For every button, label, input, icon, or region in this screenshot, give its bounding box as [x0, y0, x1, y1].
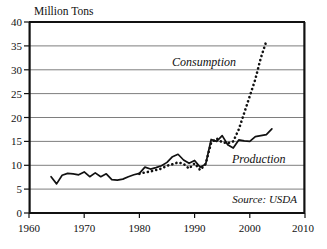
x-tick-label-2000: 2000 — [239, 222, 262, 234]
y-tick-label-10: 10 — [11, 159, 23, 171]
production-series-label: Production — [231, 152, 286, 166]
y-tick-label-25: 25 — [11, 88, 23, 100]
chart-background — [0, 0, 327, 249]
chart-page: 40 35 30 25 20 15 10 5 0 1960 1970 1980 … — [0, 0, 327, 249]
x-tick-label-1980: 1980 — [128, 222, 151, 234]
y-tick-label-15: 15 — [11, 135, 23, 147]
y-tick-label-5: 5 — [17, 183, 23, 195]
y-tick-label-0: 0 — [17, 207, 23, 219]
y-tick-label-20: 20 — [11, 112, 23, 124]
y-tick-label-30: 30 — [11, 64, 23, 76]
y-tick-label-40: 40 — [11, 16, 23, 28]
x-tick-label-1990: 1990 — [184, 222, 207, 234]
source-note: Source: USDA — [232, 193, 297, 205]
line-chart: 40 35 30 25 20 15 10 5 0 1960 1970 1980 … — [0, 0, 327, 249]
consumption-series-label: Consumption — [172, 55, 236, 69]
y-axis-title: Million Tons — [34, 5, 94, 17]
y-tick-label-35: 35 — [11, 40, 23, 52]
x-tick-label-1960: 1960 — [18, 222, 41, 234]
x-tick-label-2010: 2010 — [292, 222, 315, 234]
x-tick-label-1970: 1970 — [73, 222, 96, 234]
